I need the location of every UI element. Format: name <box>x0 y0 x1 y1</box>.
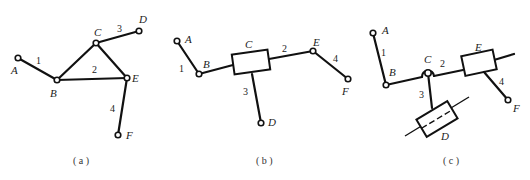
link-2-BE <box>57 78 127 80</box>
label-F: F <box>512 102 520 114</box>
label-B: B <box>389 66 396 78</box>
label-A: A <box>184 33 192 45</box>
link-num-1: 1 <box>36 55 41 66</box>
joint-A <box>370 30 376 36</box>
link-2-BC <box>57 43 96 80</box>
link-num-4: 4 <box>333 53 338 64</box>
label-F: F <box>125 129 133 141</box>
label-F: F <box>341 85 349 97</box>
label-C: C <box>245 38 253 50</box>
link-2-BC <box>386 77 422 85</box>
link-4-EF <box>484 72 508 100</box>
label-D: D <box>138 13 147 25</box>
link-num-2: 2 <box>92 64 97 75</box>
joint-D <box>258 120 264 126</box>
link-num-3: 3 <box>419 89 424 100</box>
joint-F <box>345 76 351 82</box>
link-3-CD <box>428 73 432 108</box>
slider-D <box>416 101 457 137</box>
link-num-2: 2 <box>440 58 445 69</box>
caption-b: ( b ) <box>256 155 273 167</box>
guide-E-right <box>494 54 514 60</box>
label-C: C <box>424 53 432 65</box>
joint-B <box>383 82 389 88</box>
joint-F <box>505 97 511 103</box>
joint-B <box>196 71 202 77</box>
link-2-CE <box>96 43 127 78</box>
label-E: E <box>131 72 139 84</box>
slider-block-E <box>461 50 496 76</box>
mechanism-diagrams: A B C D E F 1 2 3 4 ( a ) A B C E F D 1 … <box>0 0 530 180</box>
joint-E <box>310 48 316 54</box>
link-num-1: 1 <box>381 47 386 58</box>
label-B: B <box>50 87 57 99</box>
label-D: D <box>267 116 276 128</box>
label-E: E <box>312 36 320 48</box>
link-num-4: 4 <box>499 76 504 87</box>
joint-A <box>174 38 180 44</box>
label-A: A <box>10 64 18 76</box>
link-1-AB <box>373 33 386 85</box>
joint-E <box>124 75 130 81</box>
link-2-CE-right <box>269 51 313 59</box>
caption-c: ( c ) <box>443 155 459 167</box>
joint-D <box>136 28 142 34</box>
joint-B <box>54 77 60 83</box>
joint-C <box>425 70 431 76</box>
label-E: E <box>474 41 482 53</box>
link-num-2: 2 <box>282 43 287 54</box>
slider-C <box>232 50 270 75</box>
slider-block-C <box>232 50 270 75</box>
link-4-EF <box>118 78 127 135</box>
link-num-3: 3 <box>117 23 122 34</box>
figure-c: A B C E F D 1 2 3 4 ( c ) <box>370 24 520 167</box>
joint-A <box>15 55 21 61</box>
link-2-CE <box>434 70 463 76</box>
label-A: A <box>381 24 389 36</box>
link-num-4: 4 <box>110 103 115 114</box>
label-B: B <box>203 58 210 70</box>
link-3-CD <box>252 74 261 123</box>
figure-b: A B C E F D 1 2 3 4 ( b ) <box>174 33 351 167</box>
link-4-EF <box>313 51 348 79</box>
slider-E <box>461 50 496 76</box>
caption-a: ( a ) <box>73 155 89 167</box>
link-num-3: 3 <box>243 86 248 97</box>
link-num-1: 1 <box>179 63 184 74</box>
joint-C <box>93 40 99 46</box>
joint-F <box>115 132 121 138</box>
figure-a: A B C D E F 1 2 3 4 ( a ) <box>10 13 147 167</box>
label-D: D <box>440 130 449 142</box>
label-C: C <box>94 26 102 38</box>
